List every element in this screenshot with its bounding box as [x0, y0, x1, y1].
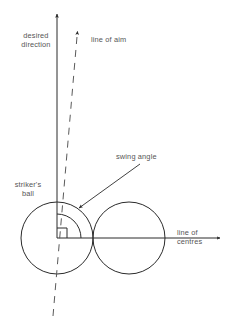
right-angle-marker	[57, 228, 67, 238]
swing-angle-arc	[57, 214, 81, 238]
label-line-of-aim: line of aim	[91, 35, 126, 44]
swing-angle-pointer-line	[79, 164, 140, 208]
label-strikers-ball: striker'sball	[8, 180, 48, 198]
label-line-of-centres-line1: line of	[177, 228, 198, 237]
label-desired-direction-line2: direction	[21, 40, 50, 49]
label-line-of-centres-line2: centres	[177, 237, 202, 246]
label-line-of-centres: line ofcentres	[177, 228, 202, 246]
label-strikers-ball-line2: ball	[22, 189, 34, 198]
label-desired-direction: desireddirection	[14, 31, 58, 49]
label-swing-angle: swing angle	[116, 152, 157, 161]
diagram-canvas: desireddirection line of aim swing angle…	[0, 0, 226, 324]
label-strikers-ball-line1: striker's	[15, 180, 42, 189]
label-desired-direction-line1: desired	[23, 31, 48, 40]
